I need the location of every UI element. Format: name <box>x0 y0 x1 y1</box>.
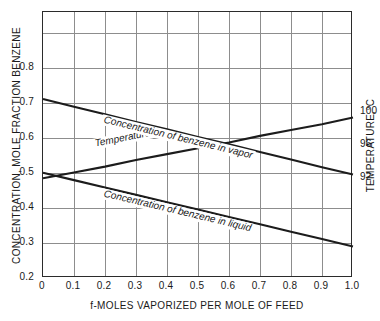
y-axis-right-title: TEMPERATURE,°C <box>365 61 376 231</box>
y-left-tick-label: 0.3 <box>19 237 34 247</box>
x-tick-label: 0.7 <box>244 281 274 291</box>
x-tick-label: 0.6 <box>213 281 243 291</box>
x-tick-label: 0.3 <box>120 281 150 291</box>
x-tick-label: 0.1 <box>58 281 88 291</box>
x-tick-label: 0.2 <box>89 281 119 291</box>
x-tick-label: 0.8 <box>275 281 305 291</box>
x-tick-label: 1.0 <box>337 281 367 291</box>
x-axis-title: f-MOLES VAPORIZED PER MOLE OF FEED <box>42 300 352 311</box>
y-left-tick-label: 0.6 <box>19 132 34 142</box>
plot-area: Temperature Concentration of benzene in … <box>42 11 352 277</box>
y-left-tick-label: 0.8 <box>19 62 34 72</box>
x-tick-label: 0.5 <box>182 281 212 291</box>
y-left-tick-label: 0.7 <box>19 97 34 107</box>
x-axis-ticks: 00.10.20.30.40.50.60.70.80.91.0 <box>42 281 352 295</box>
y-left-tick-label: 0.5 <box>19 167 34 177</box>
y-axis-left-title: CONCENTRATION, MOLE FRACTION BENZENE <box>11 26 22 266</box>
x-tick-label: 0.4 <box>151 281 181 291</box>
x-tick-label: 0.9 <box>306 281 336 291</box>
x-tick-label: 0 <box>27 281 57 291</box>
y-left-tick-label: 0.4 <box>19 202 34 212</box>
